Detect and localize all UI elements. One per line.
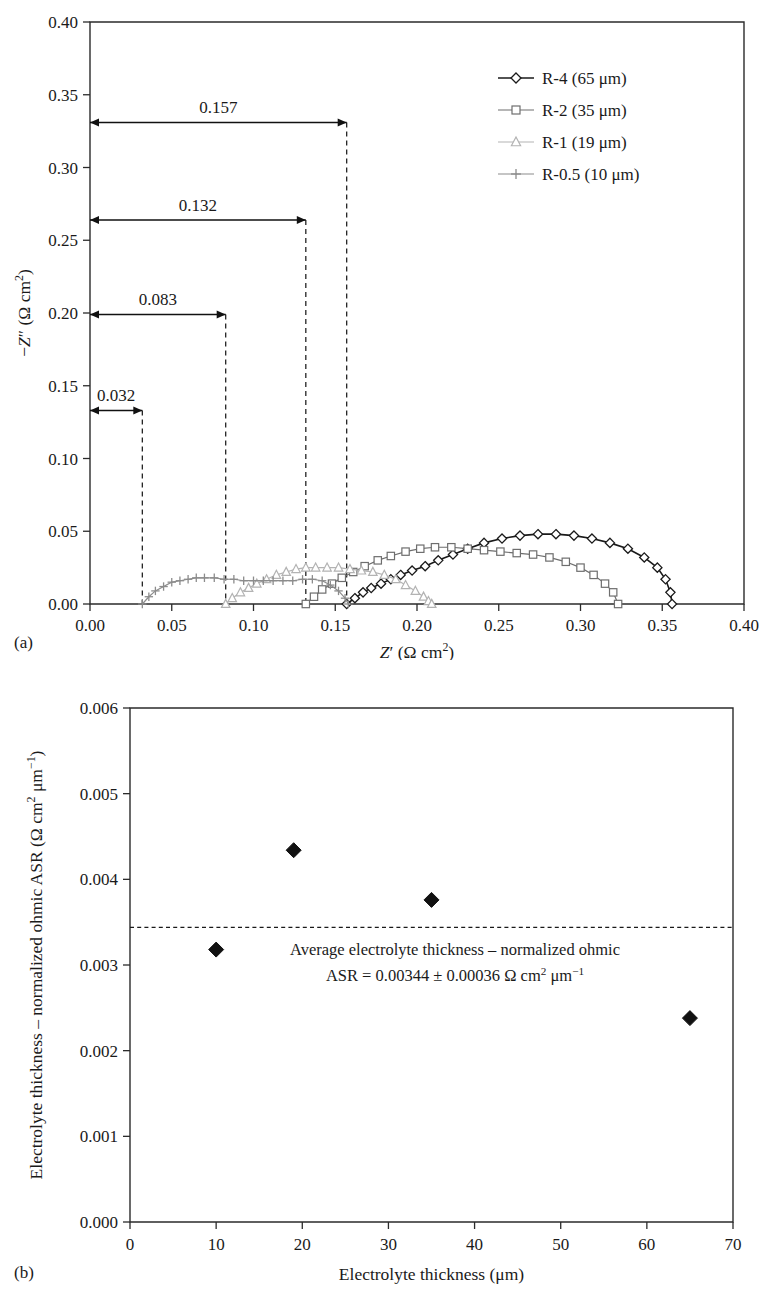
legend-marker-1 [512, 106, 520, 114]
x-tick-label: 0.15 [320, 616, 350, 635]
y-tick-label: 0.15 [48, 377, 78, 396]
average-annotation-line-1: Average electrolyte thickness – normaliz… [290, 940, 620, 959]
legend-marker-2 [511, 137, 520, 146]
series-marker-0 [367, 583, 376, 592]
arrow-head-right [297, 216, 306, 224]
series-marker-3 [220, 575, 228, 583]
span-arrow-label: 0.132 [179, 196, 217, 215]
series-marker-1 [497, 548, 504, 555]
span-arrow-label: 0.083 [139, 290, 177, 309]
legend-label-3: R-0.5 (10 μm) [542, 165, 639, 184]
y-tick-label: 0.005 [80, 785, 118, 804]
series-marker-0 [407, 566, 416, 575]
series-marker-0 [376, 579, 385, 588]
series-marker-0 [515, 531, 524, 540]
x-tick-label: 0.30 [566, 616, 596, 635]
span-arrow-label: 0.157 [199, 98, 238, 117]
x-tick-label: 0.25 [484, 616, 514, 635]
y-tick-label: 0.006 [80, 699, 118, 718]
series-marker-0 [533, 530, 542, 539]
arrow-head-right [338, 118, 347, 126]
series-marker-1 [387, 552, 394, 559]
series-marker-1 [480, 546, 487, 553]
series-marker-2 [228, 594, 236, 602]
series-line-0 [347, 534, 672, 604]
series-marker-1 [590, 571, 597, 578]
arrow-head-left [90, 216, 99, 224]
series-marker-3 [184, 575, 192, 583]
series-marker-1 [374, 557, 381, 564]
arrow-head-left [90, 310, 99, 318]
x-tick-label: 0.05 [157, 616, 187, 635]
x-tick-label: 60 [638, 1235, 655, 1254]
series-marker-1 [310, 593, 317, 600]
legend-label-2: R-1 (19 μm) [542, 133, 627, 152]
arrow-head-left [90, 406, 99, 414]
series-marker-0 [551, 530, 560, 539]
y-tick-label: 0.00 [48, 595, 78, 614]
series-marker-3 [159, 582, 167, 590]
series-marker-1 [513, 549, 520, 556]
x-tick-label: 0.40 [729, 616, 759, 635]
series-marker-0 [623, 544, 632, 553]
series-marker-3 [192, 574, 200, 582]
average-annotation-line-2: ASR = 0.00344 ± 0.00036 Ω cm2 μm−1 [326, 965, 584, 985]
y-tick-label: 0.25 [48, 231, 78, 250]
series-marker-1 [431, 544, 438, 551]
legend-marker-0 [511, 73, 521, 83]
series-marker-1 [529, 551, 536, 558]
legend-label-1: R-2 (35 μm) [542, 101, 627, 120]
y-tick-label: 0.20 [48, 304, 78, 323]
x-tick-label: 0.35 [647, 616, 677, 635]
y-axis-title: Electrolyte thickness – normalized ohmic… [24, 750, 46, 1179]
y-axis-title: −Z″ (Ω cm2) [12, 269, 34, 357]
series-marker-1 [562, 558, 569, 565]
series-marker-0 [666, 588, 675, 597]
series-marker-3 [200, 574, 208, 582]
y-tick-label: 0.05 [48, 522, 78, 541]
y-tick-label: 0.40 [48, 13, 78, 32]
series-marker-3 [289, 577, 297, 585]
x-tick-label: 70 [725, 1235, 742, 1254]
arrow-head-right [133, 406, 142, 414]
series-marker-1 [318, 586, 325, 593]
legend-marker-3 [511, 169, 521, 179]
series-marker-1 [610, 589, 617, 596]
x-tick-label: 0 [126, 1235, 135, 1254]
y-tick-label: 0.30 [48, 159, 78, 178]
series-marker-3 [168, 578, 176, 586]
y-tick-label: 0.004 [80, 870, 119, 889]
x-axis-title: Electrolyte thickness (μm) [339, 1264, 524, 1284]
x-tick-label: 20 [294, 1235, 311, 1254]
series-marker-3 [230, 575, 238, 583]
series-marker-3 [318, 577, 326, 585]
figure-container: 0.000.050.100.150.200.250.300.350.400.00… [0, 0, 766, 1309]
x-tick-label: 40 [466, 1235, 483, 1254]
series-marker-1 [577, 564, 584, 571]
nyquist-chart-svg: 0.000.050.100.150.200.250.300.350.400.00… [0, 0, 766, 660]
series-marker-1 [546, 554, 553, 561]
series-marker-1 [614, 600, 621, 607]
series-marker-2 [401, 580, 409, 588]
asr-data-point-1 [286, 843, 301, 858]
series-marker-1 [338, 574, 345, 581]
x-tick-label: 10 [208, 1235, 225, 1254]
series-marker-0 [434, 556, 443, 565]
series-marker-0 [569, 531, 578, 540]
span-arrow-label: 0.032 [97, 386, 135, 405]
panel-a-tag: (a) [14, 633, 33, 652]
series-marker-2 [244, 583, 252, 591]
y-tick-label: 0.002 [80, 1042, 118, 1061]
series-marker-1 [417, 545, 424, 552]
series-marker-3 [239, 577, 247, 585]
series-marker-1 [302, 600, 309, 607]
legend-label-0: R-4 (65 μm) [542, 69, 627, 88]
y-tick-label: 0.10 [48, 450, 78, 469]
series-marker-3 [308, 575, 316, 583]
x-tick-label: 0.00 [75, 616, 105, 635]
series-marker-1 [464, 545, 471, 552]
series-marker-1 [448, 544, 455, 551]
y-tick-label: 0.003 [80, 956, 118, 975]
series-marker-0 [605, 538, 614, 547]
x-tick-label: 0.20 [402, 616, 432, 635]
